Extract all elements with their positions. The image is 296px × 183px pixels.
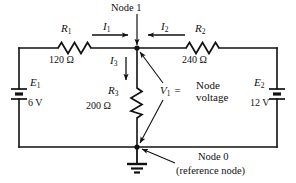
current-i1-label: I1 (103, 21, 110, 33)
resistor-r1-symbol: R1 (61, 23, 71, 35)
circuit-schematic-canvas (0, 0, 296, 183)
resistor-r2-value: 240 Ω (182, 55, 207, 66)
battery-icon-e2 (269, 89, 285, 99)
v1-letter: V (160, 84, 167, 96)
battery-icon-e1 (11, 89, 27, 99)
current-i3-label: I3 (110, 55, 117, 67)
resistor-r3-value: 200 Ω (86, 101, 111, 112)
ground-icon (127, 147, 147, 173)
source-e1-value: 6 V (28, 98, 43, 109)
junction-dot-icon-node1 (134, 45, 139, 50)
junction-dot-icon-node0 (134, 144, 139, 149)
node-voltage-annotation: V1= (160, 85, 185, 97)
resistor-icon-r2 (186, 43, 219, 54)
resistor-r3-symbol: R3 (108, 85, 118, 97)
r1-letter: R (61, 22, 68, 34)
node-voltage-leader-lower (140, 100, 163, 143)
node0-sublabel: (reference node) (176, 165, 245, 176)
i3-subscript: 3 (114, 59, 118, 68)
node1-label: Node 1 (111, 2, 142, 13)
resistor-icon-r1 (58, 43, 91, 54)
node-voltage-equals: = (174, 84, 180, 96)
node-voltage-symbol: V1 (160, 84, 170, 96)
r2-subscript: 2 (202, 27, 206, 36)
e1-subscript: 1 (37, 81, 41, 90)
source-e2-symbol: E2 (254, 77, 264, 89)
e1-letter: E (30, 76, 37, 88)
node-voltage-text: Node voltage (196, 79, 228, 104)
resistor-icon-r3 (131, 88, 142, 118)
r3-letter: R (108, 84, 115, 96)
current-i2-label: I2 (161, 21, 168, 33)
node-voltage-line1: Node (196, 79, 228, 91)
source-e2-value: 12 V (250, 98, 270, 109)
circuit-diagram: Node 1 R1 120 Ω I1 I2 R2 240 Ω I3 R3 200… (0, 0, 296, 183)
e2-letter: E (254, 76, 261, 88)
source-e1-symbol: E1 (30, 77, 40, 89)
r3-subscript: 3 (115, 89, 119, 98)
node-voltage-line2: voltage (196, 91, 228, 103)
i2-subscript: 2 (165, 25, 169, 34)
r1-subscript: 1 (68, 27, 72, 36)
v1-subscript: 1 (167, 89, 171, 98)
node0-label: Node 0 (198, 151, 229, 162)
e2-subscript: 2 (261, 81, 265, 90)
node-voltage-leader-upper (140, 52, 163, 83)
node0-pointer-arrow (142, 149, 175, 163)
resistor-r2-symbol: R2 (195, 23, 205, 35)
resistor-r1-value: 120 Ω (49, 55, 74, 66)
r2-letter: R (195, 22, 202, 34)
i1-subscript: 1 (107, 25, 111, 34)
